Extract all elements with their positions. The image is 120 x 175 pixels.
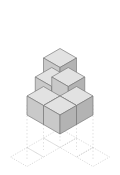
grid-rhombus-4 bbox=[11, 148, 44, 167]
cube-stack-group bbox=[27, 49, 93, 135]
isometric-figure-canvas: Isometric cube stack with projected base… bbox=[0, 0, 120, 175]
grid-rhombus-5 bbox=[77, 148, 110, 167]
isometric-cube-stack-illustration: Isometric cube stack with projected base… bbox=[0, 0, 120, 175]
grid-rhombus-2 bbox=[27, 138, 60, 157]
grid-rhombus-3 bbox=[60, 138, 93, 157]
